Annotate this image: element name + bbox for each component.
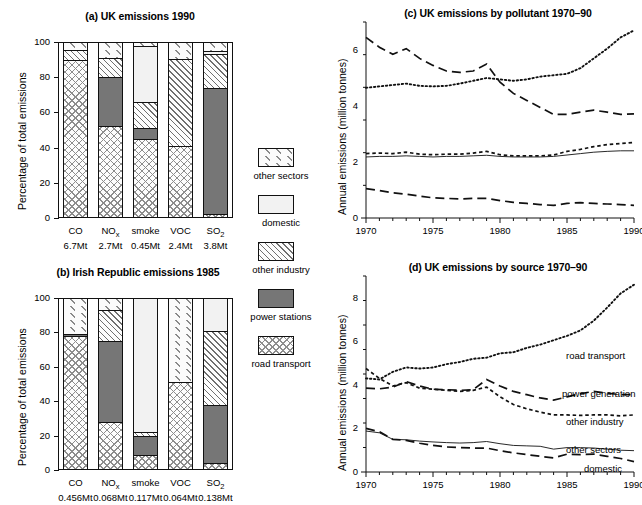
- y-tick-label: 60: [24, 106, 50, 117]
- y-tick-label: 100: [24, 292, 50, 303]
- panel-c-title: (c) UK emissions by pollutant 1970–90: [368, 7, 628, 19]
- segment-divider: [134, 128, 157, 129]
- series-annotation-co: COcarbon monoxide: [624, 75, 642, 97]
- bar-segment-domestic: [204, 299, 227, 332]
- category-total-label: 3.8Mt: [188, 240, 244, 251]
- y-tick-label: 0: [24, 212, 50, 223]
- stacked-bar: [168, 298, 193, 470]
- panel-c-plot-area: 197019751980198519900246COcarbon monoxid…: [366, 22, 634, 218]
- series-line-SO2: [366, 37, 634, 114]
- y-tick-label: 0: [24, 464, 50, 475]
- figure-legend: other sectors domestic other industry po…: [250, 148, 316, 383]
- category-label: SO2: [188, 477, 244, 491]
- y-tick-label: 2: [340, 422, 358, 433]
- bar-segment-other-sectors: [169, 299, 192, 383]
- segment-divider: [99, 310, 122, 311]
- series-annotation-so2: SO2sulphur dioxide: [624, 120, 642, 146]
- axis-lines: [366, 22, 634, 218]
- bar-segment-road-transport: [99, 127, 122, 218]
- panel-c-y-axis-label: Annual emissions (million tonnes): [336, 59, 348, 215]
- bar-segment-other-sectors: [169, 43, 192, 60]
- bar-segment-domestic: [134, 47, 157, 103]
- segment-divider: [99, 77, 122, 78]
- x-tick-label: 1985: [547, 479, 587, 490]
- x-tick-label: 1975: [413, 225, 453, 236]
- segment-divider: [204, 214, 227, 215]
- y-tick-label: 4: [340, 100, 358, 111]
- bar-segment-power-stations: [99, 78, 122, 127]
- y-tick-label: 4: [340, 379, 358, 390]
- panel-d-title: (d) UK emissions by source 1970–90: [368, 261, 628, 273]
- bar-segment-other-sectors: [64, 299, 87, 335]
- segment-divider: [204, 88, 227, 89]
- segment-divider: [204, 463, 227, 464]
- y-tick-label: 2: [340, 156, 358, 167]
- segment-divider: [169, 382, 192, 383]
- series-annotation-smoke: smoke: [628, 210, 642, 221]
- line-chart-svg: [366, 22, 634, 218]
- axis-lines: [366, 276, 634, 472]
- panel-b-plot-area: 020406080100CO0.456MtNOx0.068Mtsmoke0.11…: [58, 298, 233, 470]
- y-tick-label: 100: [24, 36, 50, 47]
- y-tick: [54, 42, 59, 43]
- y-tick-label: 0: [340, 466, 358, 477]
- legend-swatch-power-stations: [258, 289, 294, 308]
- series-line-road-transport: [366, 285, 634, 380]
- legend-swatch-road-transport: [258, 336, 294, 355]
- x-tick-label: 1975: [413, 479, 453, 490]
- y-tick: [54, 218, 59, 219]
- x-tick-label: 1980: [480, 479, 520, 490]
- y-tick-label: 80: [24, 326, 50, 337]
- y-tick: [54, 367, 59, 368]
- bar-segment-road-transport: [134, 456, 157, 470]
- series-annotation-power-generation: power generation: [562, 388, 642, 399]
- series-annotation-voc: VOCvolatile organic compounds: [628, 174, 642, 196]
- stacked-bar: [203, 298, 228, 470]
- segment-divider: [204, 331, 227, 332]
- bar-segment-road-transport: [99, 423, 122, 470]
- segment-divider: [134, 432, 157, 433]
- series-annotation-domestic: domestic: [584, 463, 642, 474]
- segment-divider: [64, 50, 87, 51]
- series-line-smoke: [366, 189, 634, 206]
- bar-segment-other-industry: [204, 55, 227, 88]
- series-annotation-other-sectors: other sectors: [566, 444, 642, 455]
- segment-divider: [169, 146, 192, 147]
- y-tick-label: 0: [340, 212, 358, 223]
- segment-divider: [204, 405, 227, 406]
- stacked-bar: [63, 298, 88, 470]
- panel-b-irish-republic-emissions-1985: (b) Irish Republic emissions 1985 Percen…: [0, 258, 260, 505]
- y-tick-label: 6: [340, 335, 358, 346]
- bar-segment-road-transport: [204, 464, 227, 470]
- segment-divider: [169, 59, 192, 60]
- bar-segment-power-stations: [204, 406, 227, 464]
- y-tick-label: 8: [340, 292, 358, 303]
- y-tick-label: 60: [24, 361, 50, 372]
- segment-divider: [134, 455, 157, 456]
- y-tick: [54, 401, 59, 402]
- x-tick-label: 1985: [547, 225, 587, 236]
- segment-divider: [134, 102, 157, 103]
- bar-segment-other-sectors: [99, 43, 122, 59]
- bar-segment-power-stations: [134, 437, 157, 455]
- segment-divider: [99, 126, 122, 127]
- segment-divider: [204, 54, 227, 55]
- bar-segment-road-transport: [169, 147, 192, 218]
- x-tick-label: 1980: [480, 225, 520, 236]
- segment-divider: [134, 46, 157, 47]
- bar-segment-domestic: [134, 299, 157, 433]
- segment-divider: [64, 334, 87, 335]
- legend-label-road-transport: road transport: [250, 358, 312, 369]
- bar-segment-other-industry: [99, 311, 122, 342]
- line-chart-svg: [366, 276, 634, 472]
- legend-swatch-other-sectors: [258, 148, 294, 167]
- stacked-bar: [98, 42, 123, 218]
- segment-divider: [99, 58, 122, 59]
- x-tick-label: 1970: [346, 225, 386, 236]
- panel-c-uk-emissions-by-pollutant: (c) UK emissions by pollutant 1970–90 An…: [318, 0, 642, 252]
- y-tick: [54, 148, 59, 149]
- panel-d-plot-area: 1970197519801985199002468road transportp…: [366, 276, 634, 472]
- stacked-bar: [168, 42, 193, 218]
- stacked-bar: [98, 298, 123, 470]
- bar-segment-other-industry: [99, 59, 122, 78]
